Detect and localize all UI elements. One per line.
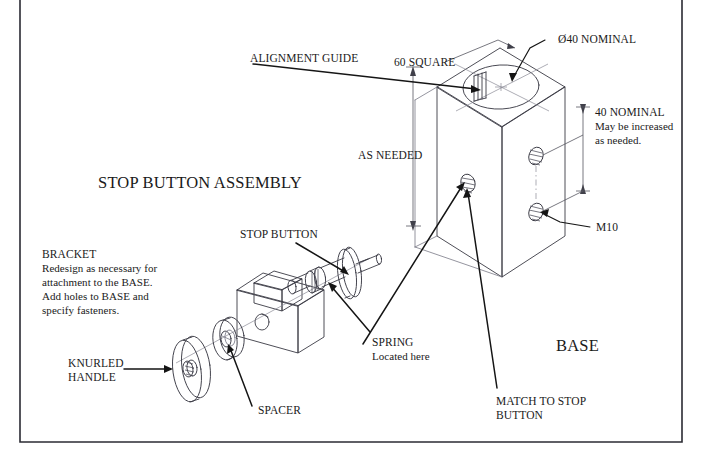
leader-alignment-guide <box>253 64 481 93</box>
label-spring: SPRING <box>372 336 414 348</box>
label-bracket-heading: BRACKET <box>42 248 96 260</box>
sheet-border <box>20 0 682 442</box>
stop-button-part <box>176 246 382 363</box>
spacer-part <box>210 316 246 362</box>
label-stop-button: STOP BUTTON <box>240 228 318 240</box>
dimension-40-nominal <box>543 104 590 211</box>
label-knurled-1: KNURLED <box>68 357 124 369</box>
label-as-needed: AS NEEDED <box>358 149 422 161</box>
label-40-nominal-note-1: May be increased <box>595 120 674 132</box>
label-60-square: 60 SQUARE <box>394 56 455 68</box>
top-bore-hole <box>455 63 549 111</box>
leader-knurled-handle <box>124 365 173 373</box>
leader-diameter-nominal <box>509 40 545 82</box>
label-bracket-note-2: attachment to the BASE. <box>42 276 153 288</box>
bracket-body <box>237 271 324 353</box>
label-bracket-note-3: Add holes to BASE and <box>42 290 149 302</box>
label-match-to-stop-button-2: BUTTON <box>496 409 544 421</box>
leader-spacer <box>227 344 252 406</box>
label-spacer: SPACER <box>258 404 301 416</box>
base-block <box>415 48 565 277</box>
label-40-nominal-note-2: as needed. <box>595 134 642 146</box>
leader-spring <box>363 182 465 344</box>
label-knurled-2: HANDLE <box>68 371 116 383</box>
leader-spring-to-collar <box>328 282 370 332</box>
label-bracket-note-1: Redesign as necessary for <box>42 262 157 274</box>
label-base: BASE <box>556 336 599 355</box>
label-m10: M10 <box>596 221 618 233</box>
knurled-handle-part <box>169 334 214 403</box>
drawing-page: STOP BUTTON ASSEMBLY ALIGNMENT GUIDE 60 … <box>0 0 719 465</box>
assembly-drawing-canvas: STOP BUTTON ASSEMBLY ALIGNMENT GUIDE 60 … <box>0 0 719 465</box>
label-diameter-40-nominal: Ø40 NOMINAL <box>558 33 636 45</box>
label-spring-note: Located here <box>372 350 430 362</box>
leader-match-to-stop-button <box>463 188 497 388</box>
label-bracket-note-4: specify fasteners. <box>42 304 119 316</box>
page-title: STOP BUTTON ASSEMBLY <box>98 173 302 192</box>
label-alignment-guide: ALIGNMENT GUIDE <box>250 52 358 64</box>
label-match-to-stop-button-1: MATCH TO STOP <box>496 395 586 407</box>
threaded-hole-upper-right <box>526 145 545 167</box>
label-40-nominal: 40 NOMINAL <box>595 106 665 118</box>
